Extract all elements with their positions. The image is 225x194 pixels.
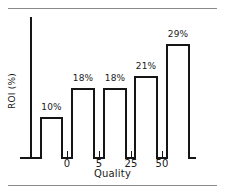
bar-4 <box>134 76 158 159</box>
bar-label-2: 18% <box>69 73 97 83</box>
bar-3 <box>103 88 127 159</box>
x-tick-label-2: 25 <box>121 158 141 169</box>
x-tick-label-0: 0 <box>57 158 77 169</box>
chart-figure: ROI (%) Quality 10% 18% 18% 21% 29% 0 5 … <box>0 0 225 194</box>
bar-label-1: 10% <box>38 102 65 112</box>
x-tick-label-1: 5 <box>89 158 109 169</box>
x-tick-0 <box>67 151 68 157</box>
bar-label-4: 21% <box>132 61 160 71</box>
x-tick-2 <box>131 151 132 157</box>
x-tick-label-3: 50 <box>152 158 172 169</box>
bar-label-3: 18% <box>101 73 129 83</box>
y-axis-title: ROI (%) <box>7 61 17 121</box>
x-tick-3 <box>162 151 163 157</box>
bar-1 <box>40 117 63 159</box>
plot-area: ROI (%) Quality 10% 18% 18% 21% 29% 0 5 … <box>0 0 225 194</box>
x-axis-title: Quality <box>0 168 225 179</box>
bar-2 <box>71 88 95 159</box>
bar-5 <box>166 44 190 159</box>
y-axis-line <box>30 17 32 157</box>
x-tick-1 <box>99 151 100 157</box>
bar-label-5: 29% <box>164 29 192 39</box>
